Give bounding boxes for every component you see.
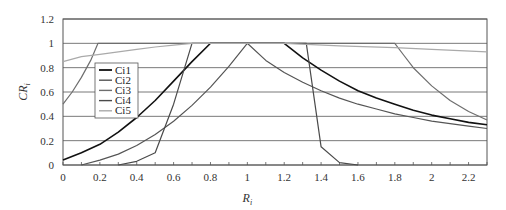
y-tick-label: 0.8 <box>40 62 54 74</box>
x-tick-label: 2.2 <box>462 171 476 183</box>
x-tick-label: 1.8 <box>388 171 402 183</box>
series-line-ci2 <box>81 43 487 165</box>
x-tick-label: 0.6 <box>167 171 181 183</box>
x-tick-label: 1.2 <box>277 171 291 183</box>
x-tick-label: 0.2 <box>93 171 107 183</box>
x-tick-label: 1.6 <box>351 171 365 183</box>
x-tick-label: 0 <box>60 171 66 183</box>
y-tick-label: 0.6 <box>40 86 54 98</box>
y-axis-title: CRi <box>16 83 32 101</box>
legend: Ci1Ci2Ci3Ci4Ci5 <box>95 63 138 118</box>
legend-label: Ci5 <box>115 104 131 116</box>
x-tick-label: 0.8 <box>204 171 218 183</box>
series-line-ci5 <box>63 43 487 61</box>
y-tick-label: 1 <box>49 37 55 49</box>
chart-canvas: 00.20.40.60.811.200.20.40.60.811.21.41.6… <box>0 0 506 210</box>
x-tick-label: 0.4 <box>130 171 144 183</box>
series-line-ci4 <box>118 43 358 165</box>
y-tick-label: 0.2 <box>40 135 54 147</box>
y-tick-label: 0.4 <box>40 110 54 122</box>
x-tick-label: 1.4 <box>314 171 328 183</box>
line-chart: 00.20.40.60.811.200.20.40.60.811.21.41.6… <box>0 0 506 210</box>
x-tick-label: 2 <box>429 171 435 183</box>
x-axis-title: Ri <box>242 191 253 207</box>
y-tick-label: 1.2 <box>40 13 54 25</box>
y-tick-label: 0 <box>49 159 55 171</box>
x-tick-label: 1 <box>245 171 251 183</box>
